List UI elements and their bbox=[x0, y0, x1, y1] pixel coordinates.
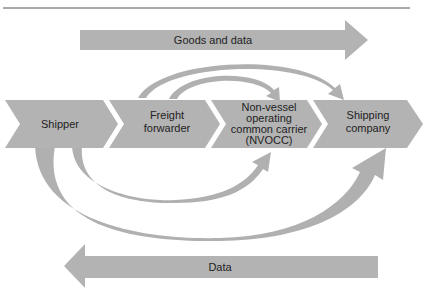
upper-arc-forwarder-to-shipping-company bbox=[138, 64, 344, 100]
stage-label: (NVOCC) bbox=[245, 134, 292, 146]
stage-label: Shipping bbox=[347, 109, 390, 121]
data-label: Data bbox=[208, 261, 232, 273]
stage-label: Shipper bbox=[41, 118, 79, 130]
stage-shipping-company: Shipping company bbox=[313, 100, 423, 148]
stage-nvocc: Non-vessel operating common carrier (NVO… bbox=[211, 100, 322, 148]
goods-and-data-arrow: Goods and data bbox=[80, 20, 368, 60]
stage-freight-forwarder: Freight forwarder bbox=[109, 100, 220, 148]
stage-label: forwarder bbox=[144, 122, 191, 134]
lower-arc-shipper-to-nvocc bbox=[72, 146, 271, 203]
stage-shipper: Shipper bbox=[5, 100, 118, 148]
supply-chain-diagram: Goods and data Shipper Freight forwarder… bbox=[0, 0, 429, 292]
upper-arc-forwarder-to-nvocc bbox=[169, 76, 280, 102]
data-arrow: Data bbox=[64, 244, 378, 288]
stage-label: company bbox=[346, 122, 391, 134]
lower-arc-shipper-to-shipping-company bbox=[35, 146, 386, 241]
goods-and-data-label: Goods and data bbox=[174, 34, 253, 46]
stage-label: Freight bbox=[150, 109, 184, 121]
